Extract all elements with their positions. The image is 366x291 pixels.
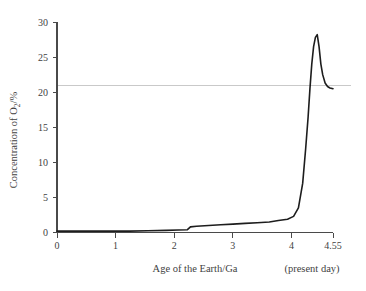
x-tick-label-1: 1 <box>113 240 118 251</box>
oxygen-concentration-curve <box>57 35 333 231</box>
x-axis-title: Age of the Earth/Ga <box>153 263 238 274</box>
x-tick-marks <box>57 233 333 238</box>
y-tick-label-25: 25 <box>38 52 48 63</box>
y-tick-marks <box>53 22 58 233</box>
x-tick-labels: 0 1 2 3 4 4.55 <box>55 240 342 251</box>
y-tick-label-10: 10 <box>38 157 48 168</box>
y-tick-label-15: 15 <box>38 122 48 133</box>
y-axis-title-prefix: Concentration of O <box>8 107 19 188</box>
x-tick-label-4: 4 <box>289 240 294 251</box>
oxygen-concentration-figure: 0 5 10 15 20 25 30 0 1 2 3 4 4.55 <box>0 0 366 291</box>
x-tick-label-0: 0 <box>55 240 60 251</box>
x-tick-label-2: 2 <box>172 240 177 251</box>
y-tick-label-5: 5 <box>43 192 48 203</box>
y-tick-label-0: 0 <box>43 227 48 238</box>
y-tick-labels: 0 5 10 15 20 25 30 <box>38 17 48 239</box>
y-tick-label-20: 20 <box>38 87 48 98</box>
present-day-annotation: (present day) <box>284 263 340 275</box>
x-tick-label-3: 3 <box>230 240 235 251</box>
y-tick-label-30: 30 <box>38 17 48 28</box>
x-tick-label-455: 4.55 <box>324 240 342 251</box>
chart-canvas: 0 5 10 15 20 25 30 0 1 2 3 4 4.55 <box>0 0 366 291</box>
y-axis-title-suffix: /% <box>8 92 19 104</box>
y-axis-title: Concentration of O2/% <box>8 92 22 189</box>
